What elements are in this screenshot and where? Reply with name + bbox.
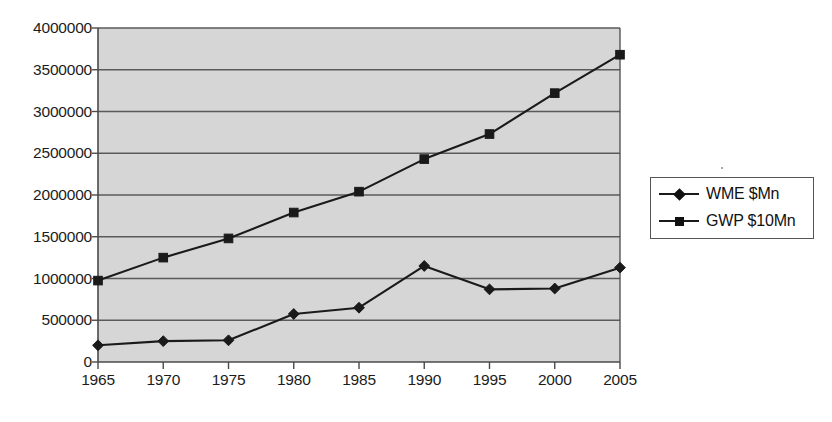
legend-item-gwp: GWP $10Mn [651, 208, 813, 234]
y-axis-tick-marks [92, 28, 98, 362]
series-wme [93, 261, 626, 351]
legend-label-wme: WME $Mn [706, 185, 779, 203]
scan-speck [721, 167, 723, 169]
line-chart: 0500000100000015000002000000250000030000… [0, 0, 832, 422]
legend-marker-diamond-icon [657, 183, 701, 205]
legend-item-wme: WME $Mn [651, 181, 813, 207]
legend-label-gwp: GWP $10Mn [706, 212, 796, 230]
legend: WME $Mn GWP $10Mn [650, 177, 814, 239]
x-axis-tick-marks [98, 362, 620, 369]
series-gwp [94, 50, 625, 284]
gridlines [98, 28, 620, 320]
data-series-layer [93, 50, 626, 350]
legend-marker-square-icon [657, 210, 701, 232]
